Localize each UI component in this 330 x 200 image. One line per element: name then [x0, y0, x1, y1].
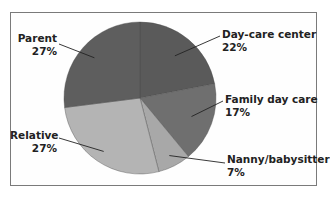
label-name: Relative: [10, 129, 57, 142]
label-name: Parent: [10, 32, 57, 45]
label-name: Family day care: [225, 93, 318, 106]
pie-slice-parent: [64, 22, 140, 108]
label-day-care-center: Day-care center 22%: [222, 28, 316, 54]
label-nanny-babysitter: Nanny/babysitter 7%: [227, 153, 330, 179]
label-name: Day-care center: [222, 28, 316, 41]
label-pct: 27%: [10, 142, 57, 155]
label-name: Nanny/babysitter: [227, 153, 330, 166]
label-pct: 22%: [222, 41, 316, 54]
label-pct: 17%: [225, 106, 318, 119]
label-family-day-care: Family day care 17%: [225, 93, 318, 119]
label-pct: 27%: [10, 45, 57, 58]
label-pct: 7%: [227, 166, 330, 179]
label-parent: Parent 27%: [10, 32, 57, 58]
label-relative: Relative 27%: [10, 129, 57, 155]
